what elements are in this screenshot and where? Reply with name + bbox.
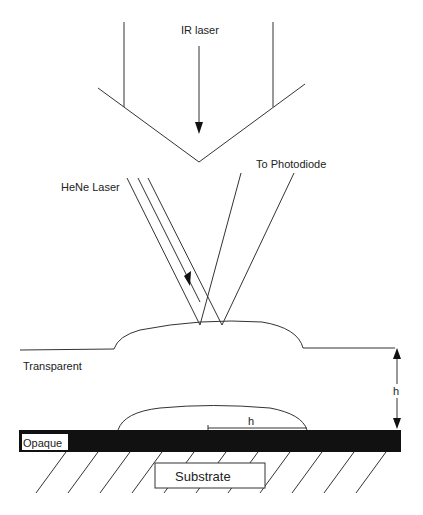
transparent-layer: Transparent [20, 321, 395, 372]
substrate-label-group: Substrate [155, 463, 265, 488]
transparent-surface [20, 321, 395, 350]
opaque-layer: Opaque [19, 430, 401, 452]
ir-arrowhead-icon [195, 122, 203, 134]
ir-laser-assembly: IR laser [98, 22, 305, 162]
bump-width-label: h [248, 415, 254, 427]
hene-arrowhead-icon [184, 271, 191, 286]
laser-deformation-diagram: IR laser HeNe Laser To Photodiode Transp… [0, 0, 423, 515]
height-dimension: h [392, 348, 402, 429]
opaque-bump-outline [118, 406, 307, 431]
photodiode-beam-1 [200, 173, 241, 325]
hene-beam-1 [127, 178, 200, 325]
hene-laser-label: HeNe Laser [61, 181, 120, 193]
substrate-label: Substrate [175, 469, 231, 484]
height-arrow-up-icon [393, 348, 401, 359]
hene-beam-3 [148, 178, 222, 325]
hene-laser-assembly: HeNe Laser To Photodiode [61, 158, 326, 325]
opaque-layer-bar [19, 430, 401, 452]
opaque-bump: h [118, 406, 307, 431]
photodiode-beam-2 [222, 173, 294, 325]
transparent-label: Transparent [23, 360, 82, 372]
height-arrow-down-icon [393, 418, 401, 429]
ir-laser-label: IR laser [181, 24, 219, 36]
hene-beam-2 [138, 178, 200, 302]
height-label: h [393, 385, 399, 397]
opaque-label: Opaque [23, 437, 62, 449]
to-photodiode-label: To Photodiode [256, 158, 326, 170]
